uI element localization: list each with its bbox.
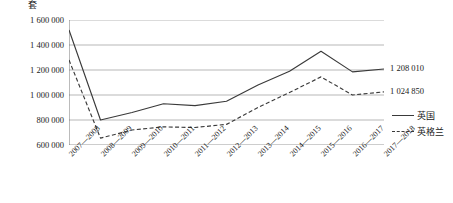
legend-item: 英格兰 [392,128,444,144]
data-point-label: 1 024 850 [390,87,424,96]
legend-key-dashed [392,131,414,132]
x-axis-tick-label: 2010—2011 [162,124,196,158]
x-axis-tick-label: 2016—2017 [351,124,386,159]
legend-item: 英国 [392,112,444,128]
x-axis-tick-label: 2014—2015 [288,124,323,159]
x-axis-tick-label: 2012—2013 [225,124,260,159]
x-axis-tick-label: 2007—2008 [67,124,102,159]
x-axis-tick-label: 2011—2012 [193,124,227,158]
legend-label: 英国 [417,112,435,121]
legend-label: 英格兰 [417,128,444,137]
chart-figure: 套 600 000800 0001 000 0001 200 0001 400 … [0,0,453,203]
x-axis-tick-label: 2015—2016 [319,124,354,159]
x-axis-tick-label: 2009—2010 [130,124,165,159]
chart-legend: 英国英格兰 [392,112,444,144]
x-axis-tick-labels: 2007—20082008—20092009—20102010—20112011… [0,0,453,203]
x-axis-tick-label: 2013—2014 [256,124,291,159]
x-axis-tick-label: 2008—2009 [99,124,134,159]
legend-key-solid [392,115,414,116]
data-point-label: 1 208 010 [390,64,424,73]
